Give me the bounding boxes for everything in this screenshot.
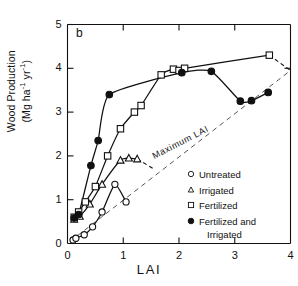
data-point-fertilized-and-irrigated: [95, 137, 102, 144]
wood-production-chart: Wood Production (Mg ha-1 yr-1) LAI b 0 1…: [0, 0, 298, 286]
legend-label-fertilized-and-irrigated: Fertilized andIrrigated: [199, 215, 256, 242]
data-point-fertilized-and-irrigated: [178, 69, 185, 76]
data-point-fertilized-and-irrigated: [88, 162, 95, 169]
data-point-fertilized: [92, 183, 98, 189]
legend-item-fertilized: Fertilized: [186, 199, 256, 213]
data-point-fertilized: [82, 199, 88, 205]
data-point-untreated: [112, 181, 118, 187]
legend: Untreated Irrigated Fertilized Fertilize…: [186, 168, 256, 244]
data-point-fertilized-and-irrigated: [106, 91, 113, 98]
legend-item-untreated: Untreated: [186, 168, 256, 182]
legend-item-irrigated: Irrigated: [186, 184, 256, 198]
data-point-fertilized: [158, 72, 164, 78]
data-point-fertilized: [117, 126, 123, 132]
data-point-fertilized: [266, 52, 272, 58]
data-point-fertilized-and-irrigated: [208, 68, 215, 75]
data-point-untreated: [81, 232, 87, 238]
data-point-untreated: [123, 199, 129, 205]
maximum-lai-annotation: Maximum LAI: [151, 124, 210, 161]
legend-item-fertilized-and-irrigated: Fertilized andIrrigated: [186, 215, 256, 242]
data-point-fertilized: [104, 153, 110, 159]
data-point-fertilized-and-irrigated: [75, 211, 82, 218]
legend-label-untreated: Untreated: [199, 168, 241, 182]
legend-label-line1: Fertilized and: [199, 216, 256, 227]
legend-label-line2: Irrigated: [199, 228, 256, 242]
data-point-untreated: [99, 209, 105, 215]
maximum-lai-annotation-text: Maximum LAI: [151, 124, 210, 161]
data-point-irrigated: [117, 157, 124, 164]
data-point-untreated: [89, 224, 95, 230]
data-point-fertilized-and-irrigated: [248, 97, 255, 104]
series-line-irrigated: [74, 158, 137, 219]
data-point-untreated: [73, 235, 79, 241]
data-point-fertilized-and-irrigated: [265, 89, 272, 96]
legend-label-irrigated: Irrigated: [199, 184, 234, 198]
maximum-lai-reference-line: [70, 70, 290, 241]
data-point-fertilized: [138, 102, 144, 108]
data-point-fertilized-and-irrigated: [237, 98, 244, 105]
data-point-fertilized: [131, 109, 137, 115]
legend-label-fertilized: Fertilized: [199, 199, 238, 213]
